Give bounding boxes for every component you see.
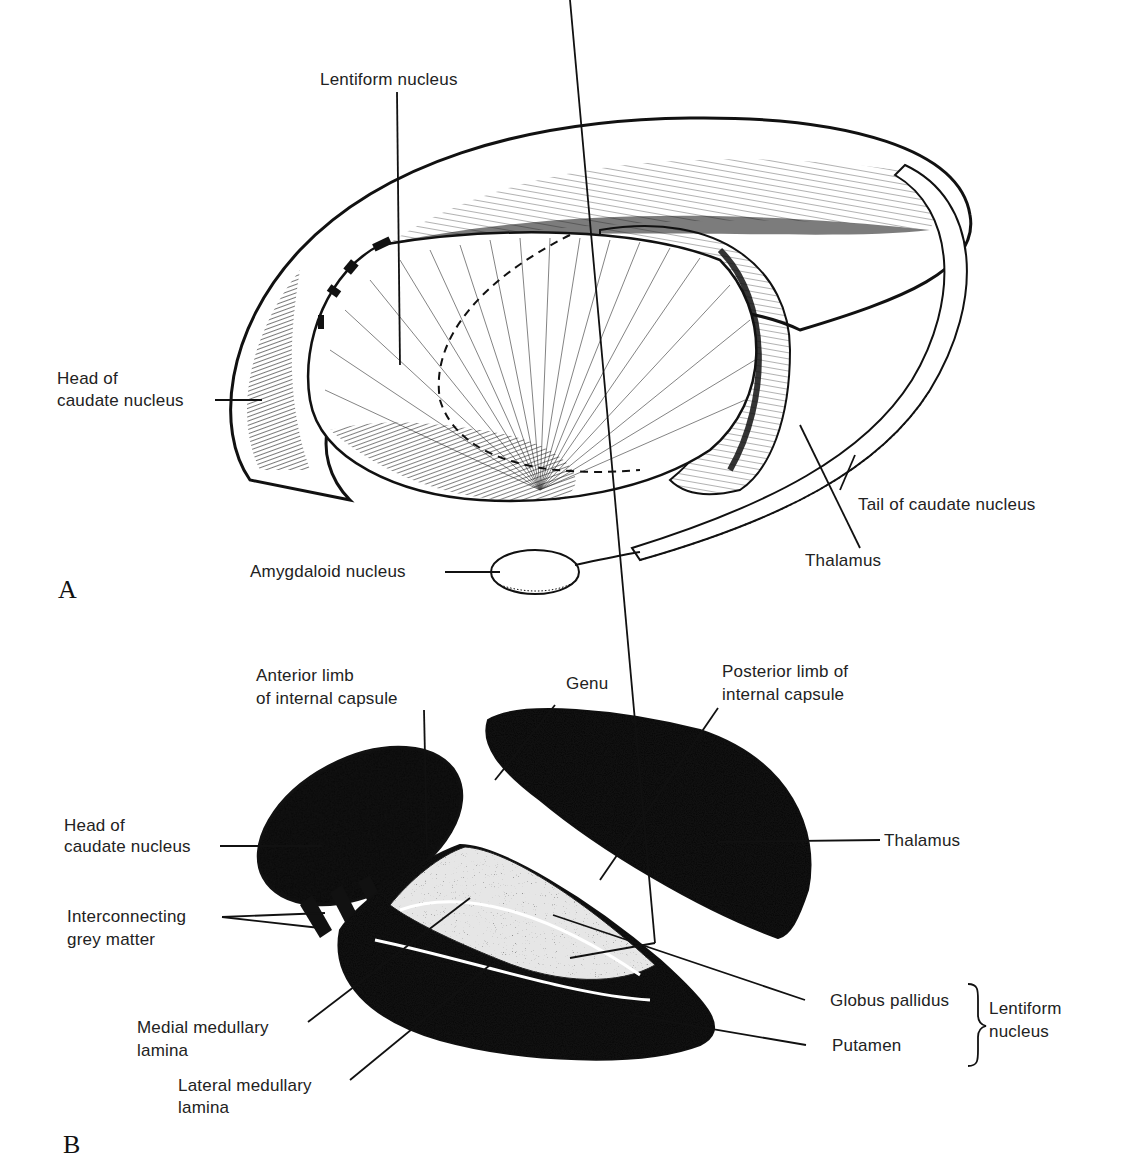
label-head-caudate-b-line1: Head of bbox=[64, 815, 125, 837]
label-lateral-lamina-line2: lamina bbox=[178, 1097, 229, 1119]
label-interconnecting-line1: Interconnecting bbox=[67, 906, 186, 928]
label-tail-caudate: Tail of caudate nucleus bbox=[858, 494, 1036, 516]
label-putamen: Putamen bbox=[832, 1035, 901, 1057]
panel-letter-a: A bbox=[58, 575, 77, 605]
panel-letter-b: B bbox=[63, 1130, 80, 1160]
label-thalamus-b: Thalamus bbox=[884, 830, 960, 852]
label-lentiform-b-line1: Lentiform bbox=[989, 998, 1062, 1020]
label-genu: Genu bbox=[566, 673, 608, 695]
label-head-caudate-b-line2: caudate nucleus bbox=[64, 836, 191, 858]
label-globus-pallidus: Globus pallidus bbox=[830, 990, 949, 1012]
label-anterior-limb-line2: of internal capsule bbox=[256, 688, 398, 710]
label-amygdaloid-nucleus: Amygdaloid nucleus bbox=[250, 561, 406, 583]
lentiform-brace bbox=[968, 984, 986, 1066]
label-medial-lamina-line2: lamina bbox=[137, 1040, 188, 1062]
label-medial-lamina-line1: Medial medullary bbox=[137, 1017, 269, 1039]
label-lentiform-nucleus-a: Lentiform nucleus bbox=[320, 69, 458, 91]
label-thalamus-a: Thalamus bbox=[805, 550, 881, 572]
anatomy-illustration bbox=[0, 0, 1125, 1162]
amygdaloid-nucleus-shape bbox=[491, 550, 579, 594]
label-posterior-limb-line1: Posterior limb of bbox=[722, 661, 848, 683]
panel-b-drawing bbox=[231, 709, 811, 1060]
label-lateral-lamina-line1: Lateral medullary bbox=[178, 1075, 312, 1097]
label-head-caudate-a-line2: caudate nucleus bbox=[57, 390, 184, 412]
label-anterior-limb-line1: Anterior limb bbox=[256, 665, 354, 687]
label-interconnecting-line2: grey matter bbox=[67, 929, 155, 951]
label-head-caudate-a-line1: Head of bbox=[57, 368, 118, 390]
label-lentiform-b-line2: nucleus bbox=[989, 1021, 1049, 1043]
basal-ganglia-figure: Lentiform nucleus Head of caudate nucleu… bbox=[0, 0, 1125, 1162]
panel-a-drawing bbox=[231, 118, 971, 594]
label-posterior-limb-line2: internal capsule bbox=[722, 684, 844, 706]
